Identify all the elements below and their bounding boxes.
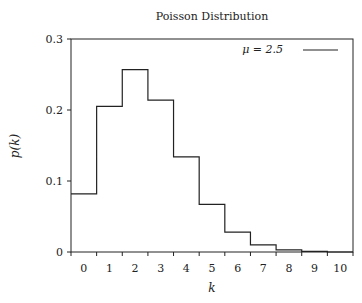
distribution-steps	[71, 70, 353, 252]
x-tick-label: 8	[285, 262, 292, 275]
x-tick-label: 7	[260, 262, 267, 275]
y-tick-label: 0.3	[46, 33, 64, 46]
x-axis-label: k	[208, 281, 215, 295]
x-tick-label: 3	[157, 262, 164, 275]
x-tick-label: 1	[106, 262, 113, 275]
chart-title: Poisson Distribution	[156, 10, 269, 23]
y-tick-label: 0.1	[46, 175, 64, 188]
y-tick-label: 0.2	[46, 104, 64, 117]
y-tick-label: 0	[56, 246, 63, 259]
legend: μ = 2.5	[242, 43, 338, 56]
legend-label: μ = 2.5	[242, 43, 283, 56]
x-tick-label: 6	[234, 262, 241, 275]
x-tick-label: 0	[80, 262, 87, 275]
y-axis: 00.10.20.3	[46, 33, 72, 259]
x-axis: 012345678910	[71, 252, 353, 275]
plot-frame	[71, 39, 353, 252]
poisson-chart: Poisson Distribution 00.10.20.3 01234567…	[0, 0, 362, 303]
y-axis-label: p(k)	[8, 134, 22, 159]
x-tick-label: 4	[183, 262, 190, 275]
x-tick-label: 10	[333, 262, 347, 275]
x-tick-label: 2	[132, 262, 139, 275]
x-tick-label: 5	[209, 262, 216, 275]
x-tick-label: 9	[311, 262, 318, 275]
